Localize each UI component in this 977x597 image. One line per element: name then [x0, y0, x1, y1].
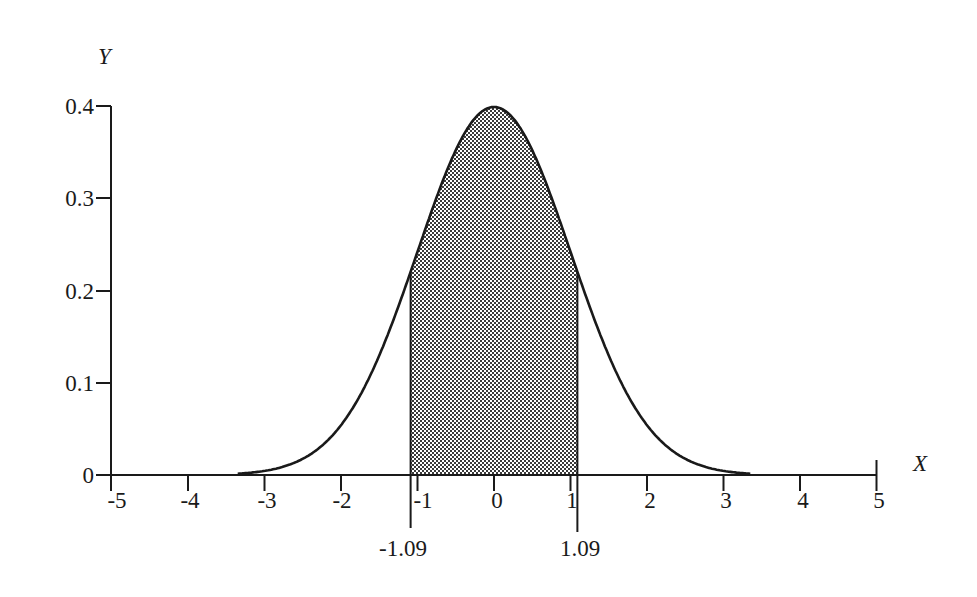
x-tick-label: 3 [720, 488, 732, 513]
left-bound-label: -1.09 [379, 536, 427, 561]
x-tick-label: -5 [107, 488, 126, 513]
y-tick-label: 0.3 [65, 186, 94, 211]
y-axis-title: Y [98, 44, 113, 69]
x-tick-label: -2 [332, 488, 351, 513]
x-axis-title: X [912, 451, 928, 476]
normal-distribution-chart: Y 0.4 0.3 0.2 0.1 0 -5 -4 -3 -2 -1 0 1 2… [0, 0, 977, 597]
x-tick-label: -4 [180, 488, 200, 513]
x-tick-label: -3 [257, 488, 276, 513]
shaded-area [411, 107, 578, 475]
right-bound-label: 1.09 [560, 536, 600, 561]
y-tick-label: 0.1 [65, 371, 94, 396]
y-ticks [96, 106, 111, 383]
x-tick-label: 2 [644, 488, 656, 513]
y-tick-label: 0.2 [65, 279, 94, 304]
x-tick-label: 4 [797, 488, 809, 513]
x-tick-label: 1 [566, 488, 578, 513]
x-tick-label: 0 [491, 488, 503, 513]
x-tick-label: 5 [873, 488, 885, 513]
x-tick-label: -1 [413, 488, 432, 513]
y-tick-label: 0.4 [65, 94, 94, 119]
y-tick-label: 0 [83, 463, 95, 488]
